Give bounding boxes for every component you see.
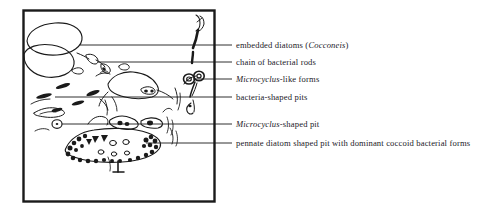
figure-panel: embedded diatoms (Cocconeis) chain of ba… xyxy=(0,0,491,215)
label-embedded-diatoms-post: ) xyxy=(346,40,349,50)
label-microcyclus-like-forms-post: -like forms xyxy=(280,74,320,84)
label-microcyclus-like-forms-genus: Microcyclus xyxy=(236,74,280,84)
label-microcyclus-like-forms: Microcyclus-like forms xyxy=(236,74,319,85)
label-microcyclus-shaped-pit-genus: Microcyclus xyxy=(236,119,280,129)
label-microcyclus-shaped-pit: Microcyclus-shaped pit xyxy=(236,119,319,130)
label-embedded-diatoms: embedded diatoms (Cocconeis) xyxy=(236,40,349,51)
figure-frame xyxy=(24,11,215,202)
figure-drawing xyxy=(0,0,491,215)
label-bacteria-shaped-pits-pre: bacteria-shaped pits xyxy=(236,92,307,102)
label-microcyclus-shaped-pit-post: -shaped pit xyxy=(280,119,320,129)
label-pennate-diatom-shaped-pit-pre: pennate diatom shaped pit with dominant … xyxy=(236,138,470,148)
label-chain-of-bacterial-rods: chain of bacterial rods xyxy=(236,57,316,68)
label-embedded-diatoms-genus: Cocconeis xyxy=(308,40,345,50)
label-chain-of-bacterial-rods-pre: chain of bacterial rods xyxy=(236,57,316,67)
label-bacteria-shaped-pits: bacteria-shaped pits xyxy=(236,92,307,103)
label-pennate-diatom-shaped-pit: pennate diatom shaped pit with dominant … xyxy=(236,138,476,149)
label-embedded-diatoms-pre: embedded diatoms ( xyxy=(236,40,308,50)
